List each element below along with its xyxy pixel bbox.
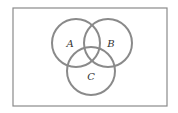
set-b-label: B [106, 38, 114, 49]
set-a-label: A [65, 38, 73, 49]
set-c-label: C [87, 71, 95, 82]
set-a-circle [52, 19, 100, 67]
venn-diagram: A B C [0, 0, 178, 113]
